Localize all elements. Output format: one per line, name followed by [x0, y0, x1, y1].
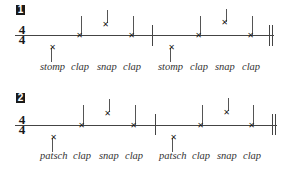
beat-label: clap	[123, 61, 141, 72]
exercise-1: 1 4 4 ✕ ✕ ✕ ✕ ✕ ✕ ✕ ✕ stomp clap snap cl…	[0, 0, 290, 85]
beat-label: clap	[190, 61, 208, 72]
beat-label: clap	[243, 150, 261, 161]
x-notehead-icon: ✕	[130, 122, 137, 129]
beat-label: snap	[217, 150, 237, 161]
x-notehead-icon: ✕	[195, 32, 202, 39]
time-signature-bottom: 4	[17, 125, 27, 135]
beat-label: patsch	[40, 150, 67, 161]
x-notehead-icon: ✕	[223, 109, 230, 116]
staff-line	[15, 125, 277, 126]
double-barline-second	[275, 114, 276, 135]
x-notehead-icon: ✕	[104, 110, 111, 117]
exercise-2: 2 4 4 ✕ ✕ ✕ ✕ ✕ ✕ ✕ ✕ patsch clap snap c…	[0, 85, 290, 170]
x-notehead-icon: ✕	[102, 21, 109, 28]
x-notehead-icon: ✕	[197, 122, 204, 129]
double-barline-thin	[269, 25, 270, 46]
beat-label: clap	[73, 150, 91, 161]
time-signature-bottom: 4	[17, 35, 27, 45]
x-notehead-icon: ✕	[128, 32, 135, 39]
beat-label: clap	[242, 61, 260, 72]
double-barline-thin	[272, 114, 273, 135]
x-notehead-icon: ✕	[248, 122, 255, 129]
x-notehead-icon: ✕	[49, 44, 56, 51]
staff-line	[15, 35, 274, 36]
barline	[155, 114, 156, 135]
x-notehead-icon: ✕	[78, 122, 85, 129]
beat-label: clap	[71, 61, 89, 72]
exercise-number-badge: 2	[16, 93, 25, 103]
beat-label: patsch	[159, 150, 186, 161]
x-notehead-icon: ✕	[50, 134, 57, 141]
exercise-number-badge: 1	[16, 5, 25, 15]
x-notehead-icon: ✕	[221, 19, 228, 26]
x-notehead-icon: ✕	[247, 32, 254, 39]
beat-label: snap	[215, 61, 235, 72]
beat-label: snap	[97, 61, 117, 72]
x-notehead-icon: ✕	[168, 44, 175, 51]
beat-label: stomp	[158, 61, 183, 72]
beat-label: clap	[125, 150, 143, 161]
x-notehead-icon: ✕	[170, 134, 177, 141]
beat-label: stomp	[40, 61, 65, 72]
beat-label: snap	[99, 150, 119, 161]
barline	[152, 25, 153, 46]
beat-label: clap	[192, 150, 210, 161]
x-notehead-icon: ✕	[76, 32, 83, 39]
double-barline-second	[272, 25, 273, 46]
